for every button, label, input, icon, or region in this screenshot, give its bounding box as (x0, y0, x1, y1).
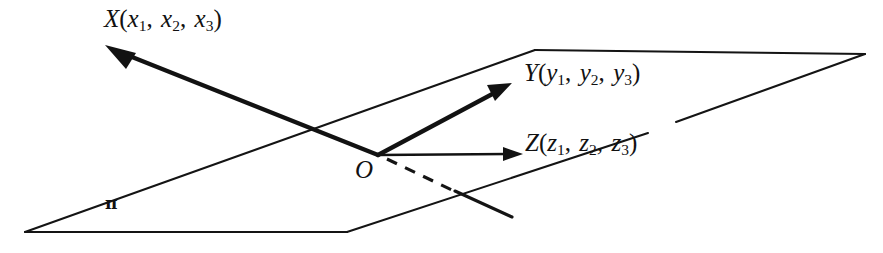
vector-y-subscript-3: 3 (624, 71, 632, 88)
vector-x-label: X(x1, x2, x3) (104, 6, 222, 31)
vector-z-arrowhead (503, 147, 523, 161)
vector-x-subscript-3: 3 (206, 17, 214, 34)
vector-x-component-3: x (195, 5, 206, 32)
vector-x-component-1: x (128, 5, 139, 32)
vector-x-subscript-2: 2 (172, 17, 180, 34)
vector-z-component-3: z (611, 129, 621, 156)
vector-y-open-paren: ( (538, 59, 546, 86)
vector-y-label: Y(y1, y2, y3) (524, 60, 640, 85)
vector-y-comma-2: , (599, 59, 605, 86)
vector-z-label: Z(z1, z2, z3) (525, 130, 637, 155)
vector-z-symbol: Z (525, 129, 539, 156)
vector-y-arrowhead (487, 83, 512, 101)
vector-y-subscript-1: 1 (557, 71, 565, 88)
vector-y-subscript-2: 2 (591, 71, 599, 88)
vector-x-comma-1: , (146, 5, 152, 32)
vector-y-comma-1: , (565, 59, 571, 86)
plane-pi-outline (25, 50, 865, 232)
vector-y-component-1: y (546, 59, 557, 86)
vector-y-symbol: Y (524, 59, 538, 86)
vector-z-ray (378, 147, 523, 161)
vector-y-component-2: y (580, 59, 591, 86)
vector-z-comma-2: , (597, 129, 603, 156)
plane-edge-left (25, 50, 535, 232)
vector-z-component-2: z (579, 129, 589, 156)
plane-pi-label: π (105, 195, 117, 212)
vector-x-component-2: x (161, 5, 172, 32)
vector-z-component-1: z (547, 129, 557, 156)
vector-z-comma-1: , (565, 129, 571, 156)
vector-x-arrowhead (105, 45, 136, 69)
vector-z-subscript-3: 3 (621, 141, 629, 158)
vector-x-ray (105, 45, 378, 155)
visible-line-solid (455, 191, 512, 217)
hidden-line-dashed (387, 159, 454, 191)
vector-x-comma-2: , (180, 5, 186, 32)
vector-z-close-paren: ) (629, 129, 637, 156)
vector-x-close-paren: ) (213, 5, 221, 32)
vector-x-subscript-1: 1 (139, 17, 147, 34)
vector-y-close-paren: ) (632, 59, 640, 86)
origin-label: O (355, 157, 373, 182)
geometry-drawing (0, 0, 883, 253)
vector-z-shaft (378, 154, 508, 155)
plane-edge-right (676, 54, 865, 122)
plane-edge-top (535, 50, 865, 54)
vector-y-component-3: y (613, 59, 624, 86)
vector-y-ray (378, 83, 512, 155)
vector-z-subscript-1: 1 (557, 141, 565, 158)
vector-x-shaft (122, 53, 378, 155)
vector-z-subscript-2: 2 (589, 141, 597, 158)
vector-x-symbol: X (104, 5, 119, 32)
vector-x-open-paren: ( (119, 5, 127, 32)
vector-z-open-paren: ( (539, 129, 547, 156)
figure-canvas: X(x1, x2, x3) Y(y1, y2, y3) Z(z1, z2, z3… (0, 0, 883, 253)
